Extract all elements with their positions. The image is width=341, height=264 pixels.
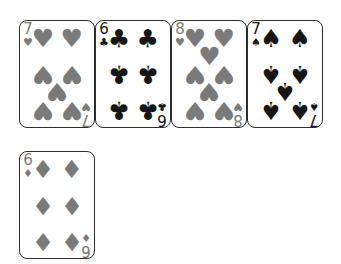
- hearts-icon: ♥: [61, 25, 83, 50]
- spades-icon: ♠: [289, 98, 311, 123]
- card-6-clubs[interactable]: 6♣6♣♣♣♣♣♣♣: [95, 20, 171, 128]
- diamonds-icon: ♦: [32, 156, 54, 181]
- clubs-icon: ♣: [137, 98, 159, 123]
- clubs-icon: ♣: [108, 25, 130, 50]
- card-8-hearts[interactable]: 8♥8♥♥♥♥♥♥♥♥♥: [171, 20, 247, 128]
- hearts-icon: ♥: [32, 25, 54, 50]
- spades-icon: ♠: [260, 98, 282, 123]
- card-row-bottom: 6♦6♦♦♦♦♦♦♦: [19, 151, 95, 259]
- card-7-hearts[interactable]: 7♥7♥♥♥♥♥♥♥♥: [19, 20, 95, 128]
- card-7-spades[interactable]: 7♠7♠♠♠♠♠♠♠♠: [247, 20, 323, 128]
- hearts-icon: ♥: [184, 98, 206, 123]
- card-row-top: 7♥7♥♥♥♥♥♥♥♥6♣6♣♣♣♣♣♣♣8♥8♥♥♥♥♥♥♥♥♥7♠7♠♠♠♠…: [19, 20, 323, 128]
- spades-icon: ♠: [289, 25, 311, 50]
- card-6-diamonds[interactable]: 6♦6♦♦♦♦♦♦♦: [19, 151, 95, 259]
- spades-icon: ♠: [260, 25, 282, 50]
- clubs-icon: ♣: [108, 98, 130, 123]
- hearts-icon: ♥: [32, 98, 54, 123]
- diamonds-icon: ♦: [32, 193, 54, 218]
- diamonds-icon: ♦: [61, 229, 83, 254]
- diamonds-icon: ♦: [61, 193, 83, 218]
- clubs-icon: ♣: [108, 62, 130, 87]
- hearts-icon: ♥: [213, 98, 235, 123]
- diamonds-icon: ♦: [32, 229, 54, 254]
- diamonds-icon: ♦: [61, 156, 83, 181]
- hearts-icon: ♥: [61, 98, 83, 123]
- clubs-icon: ♣: [137, 62, 159, 87]
- clubs-icon: ♣: [137, 25, 159, 50]
